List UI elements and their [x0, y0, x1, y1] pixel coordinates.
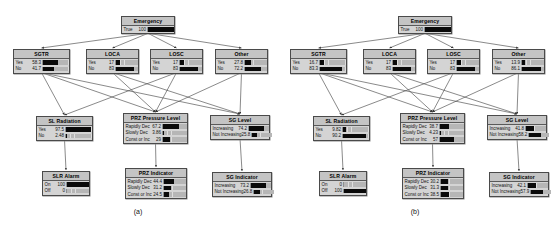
node-state-row: Yes17	[364, 60, 415, 66]
edge-sg-level-to-sg-indicator	[517, 139, 519, 171]
edge-sgtr-to-sl-radiation	[319, 73, 342, 115]
edge-other-to-prz-pressure-level	[433, 73, 519, 112]
bar-fill	[180, 67, 198, 72]
bar-gridlines	[343, 127, 369, 132]
node-sl-radiation[interactable]: SL RadiationYes9.82No90.2	[313, 116, 370, 141]
node-state-rows: True100	[399, 26, 451, 33]
bar-fill	[320, 60, 324, 65]
node-sg-level[interactable]: SG LevelIncreasing41.8Not Increasing58.2	[487, 115, 547, 140]
bar-fill	[343, 127, 346, 132]
edge-emergency-to-other	[425, 33, 519, 48]
node-title: SG Indicator	[213, 173, 271, 182]
node-loca[interactable]: LOCAYes17No83	[363, 49, 416, 74]
node-state-row: Off100	[320, 188, 366, 194]
node-state-rows: On100Off0	[43, 181, 89, 195]
node-losc[interactable]: LOSCYes17No83	[150, 49, 203, 74]
node-prz-pressure-level[interactable]: PRZ Pressure LevelRapidly Dec67.2Slowly …	[123, 113, 188, 144]
node-state-row: Slowly Dec31.2	[126, 185, 186, 191]
state-value: 83	[371, 66, 392, 71]
bar-fill	[441, 192, 449, 197]
edge-prz-pressure-level-to-prz-indicator	[433, 143, 434, 167]
bar-fill	[441, 186, 448, 191]
node-other[interactable]: OtherYes13.9No86.1	[492, 49, 545, 74]
node-state-row: Increasing41.8	[488, 126, 546, 132]
state-bar	[42, 67, 69, 72]
node-title: SLR Alarm	[320, 172, 366, 181]
node-state-rows: Yes17No83	[428, 59, 479, 73]
state-value: 83.3	[298, 66, 319, 71]
node-loca[interactable]: LOCAYes17No83	[86, 49, 139, 74]
state-label: Rapidly Dec	[403, 179, 429, 184]
node-state-rows: Rapidly Dec38.7Slowly Dec4.23Const or In…	[401, 123, 464, 143]
bar-fill	[440, 124, 449, 129]
state-bar	[179, 60, 202, 65]
edge-loca-to-prz-pressure-level	[113, 73, 156, 112]
bayesian-network-panel-b: EmergencyTrue100SGTRYes16.7No83.3LOCAYes…	[277, 0, 553, 231]
edge-loca-to-prz-pressure-level	[390, 73, 433, 112]
state-bar	[248, 126, 269, 131]
node-state-row: Not Increasing58.2	[488, 132, 546, 138]
state-label: No	[493, 66, 500, 71]
node-state-rows: Yes9.82No90.2	[314, 126, 369, 140]
bar-fill	[393, 60, 397, 65]
node-other[interactable]: OtherYes27.8No72.2	[215, 49, 268, 74]
node-prz-indicator[interactable]: PRZ IndicatorRapidly Dec44.4Slowly Dec31…	[125, 168, 187, 199]
node-slr-alarm[interactable]: SLR AlarmOn100Off0	[42, 171, 90, 196]
node-state-row: Yes27.8	[216, 60, 267, 66]
state-label: Yes	[493, 60, 502, 65]
node-title: LOCA	[87, 50, 138, 59]
state-label: Const or Inc	[124, 137, 150, 142]
state-bar	[147, 27, 174, 32]
node-state-row: No72.2	[216, 66, 267, 72]
node-state-row: No83	[364, 66, 415, 72]
bar-fill	[163, 137, 170, 142]
state-label: Rapidly Dec	[126, 179, 152, 184]
state-bar	[162, 137, 187, 142]
bar-fill	[245, 67, 261, 72]
state-label: Yes	[291, 60, 300, 65]
edge-emergency-to-losc	[425, 33, 454, 48]
node-title: SGTR	[291, 50, 346, 59]
state-bar	[528, 133, 549, 138]
node-emergency[interactable]: EmergencyTrue100	[121, 16, 175, 34]
node-state-row: No41.7	[14, 66, 69, 72]
panel-caption-b: (b)	[277, 208, 553, 215]
node-losc[interactable]: LOSCYes17No83	[427, 49, 480, 74]
state-bar	[440, 186, 463, 191]
state-bar	[251, 133, 272, 138]
node-sg-level[interactable]: SG LevelIncreasing74.2Not Increasing25.8	[210, 115, 270, 140]
node-state-row: Const or Inc57	[401, 136, 464, 142]
node-sgtr[interactable]: SGTRYes16.7No83.3	[290, 49, 347, 74]
bar-fill	[245, 60, 251, 65]
node-state-row: Increasing74.2	[211, 126, 269, 132]
state-bar	[163, 192, 186, 197]
node-sgtr[interactable]: SGTRYes58.3No41.7	[13, 49, 70, 74]
state-value: 83	[94, 66, 115, 71]
node-state-rows: Yes13.9No86.1	[493, 59, 544, 73]
node-state-row: Const or Inc24.5	[126, 191, 186, 197]
state-value: 17	[437, 60, 456, 65]
node-sg-indicator[interactable]: SG IndicatorIncreasing73.2Not Increasing…	[212, 172, 272, 197]
state-label: Slowly Dec	[403, 185, 427, 190]
node-prz-indicator[interactable]: PRZ IndicatorRapidly Dec30.2Slowly Dec31…	[402, 168, 464, 199]
state-value: 31.3	[427, 185, 440, 190]
edge-loca-to-sg-level	[113, 73, 241, 114]
edge-sgtr-to-prz-pressure-level	[319, 73, 433, 112]
state-label: On	[43, 182, 51, 187]
state-value: 58.3	[23, 60, 42, 65]
state-bar	[521, 60, 544, 65]
state-bar	[162, 131, 187, 136]
bar-fill	[163, 131, 164, 136]
state-bar	[392, 67, 415, 72]
state-value: 0	[50, 188, 66, 193]
node-prz-pressure-level[interactable]: PRZ Pressure LevelRapidly Dec38.7Slowly …	[400, 113, 465, 144]
state-value: 57.9	[521, 189, 531, 194]
node-sl-radiation[interactable]: SL RadiationYes97.5No2.48	[36, 116, 93, 141]
state-value: 17	[373, 60, 392, 65]
edge-losc-to-prz-pressure-level	[433, 73, 454, 112]
node-slr-alarm[interactable]: SLR AlarmOn0Off100	[319, 171, 367, 196]
state-label: Slowly Dec	[124, 130, 148, 135]
state-value: 30.2	[429, 179, 440, 184]
node-sg-indicator[interactable]: SG IndicatorIncreasing42.1Not Increasing…	[489, 172, 549, 197]
node-emergency[interactable]: EmergencyTrue100	[398, 16, 452, 34]
